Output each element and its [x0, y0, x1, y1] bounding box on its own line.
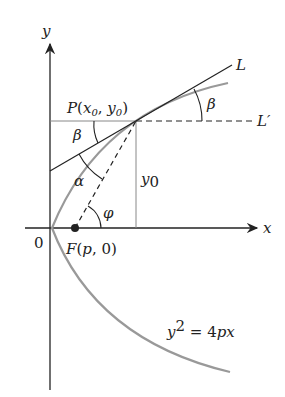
y0-label: y0	[140, 170, 159, 191]
phi-arc	[88, 206, 101, 228]
beta-label-left: β	[72, 126, 82, 144]
phi-label: φ	[103, 204, 114, 222]
tangent-label: L	[235, 56, 246, 74]
beta-label-right: β	[206, 95, 216, 113]
beta-arc-right	[194, 89, 202, 121]
beta-arc-left	[94, 121, 98, 143]
point-P-label: P(x0, y0)	[66, 99, 128, 118]
focus-point	[71, 224, 79, 232]
focus-label: F(p, 0)	[65, 240, 117, 258]
origin-label: 0	[34, 234, 44, 252]
tangent-line-L	[50, 65, 232, 171]
curve-equation: y2 = 4px	[166, 317, 235, 341]
y-axis-label: y	[41, 22, 51, 40]
x-axis-label: x	[263, 219, 272, 237]
alpha-label: α	[74, 172, 84, 190]
l-prime-label: L′	[256, 112, 271, 130]
parabola-diagram: y x 0 L L′ P(x0, y0) β β α φ y0 F(p, 0) …	[0, 0, 285, 397]
